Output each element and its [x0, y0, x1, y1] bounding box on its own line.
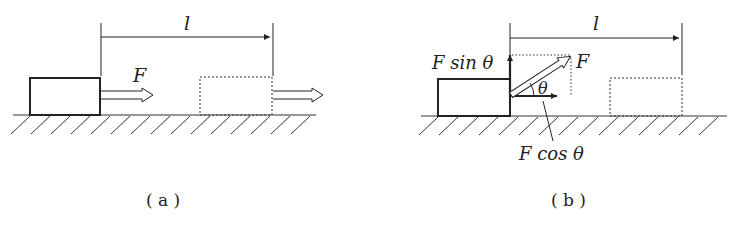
angle-label: θ	[538, 79, 548, 98]
leader-line	[543, 101, 553, 141]
caption-b: ( b )	[551, 190, 586, 210]
distance-label-b: l	[593, 12, 599, 34]
panel-b: l F θ F sin θ F cos θ ( b )	[419, 12, 727, 210]
distance-label-a: l	[184, 12, 190, 34]
force-arrow-icon	[101, 88, 153, 102]
ground-b	[419, 116, 727, 135]
block-final-b	[610, 78, 682, 116]
work-diagram: l F ( a )	[0, 0, 729, 230]
vertical-component-label: F sin θ	[431, 52, 494, 73]
horizontal-component-label: F cos θ	[518, 143, 584, 164]
block-initial-a	[30, 78, 100, 115]
panel-a: l F ( a )	[11, 12, 323, 210]
block-initial-b	[438, 79, 510, 116]
force-label-b: F	[575, 50, 590, 72]
block-final-a	[200, 77, 272, 115]
force-label-a: F	[132, 64, 147, 86]
force-arrow-icon	[273, 88, 323, 102]
caption-a: ( a )	[146, 190, 180, 210]
ground-a	[11, 115, 316, 134]
